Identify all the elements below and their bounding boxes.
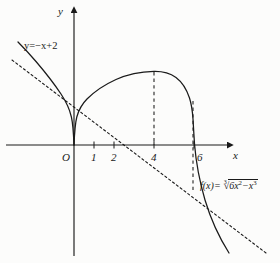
y-axis-label: y (58, 6, 63, 17)
function-curve-left-branch (18, 42, 74, 145)
x-axis-label: x (233, 150, 238, 161)
x-tick-label-2: 2 (111, 152, 117, 163)
x-tick-label-1: 1 (91, 152, 97, 163)
radicand-minus-term: −x (242, 180, 253, 191)
x-tick-label-6: 6 (197, 152, 203, 163)
origin-label: O (62, 152, 70, 163)
x-tick-label-4: 4 (151, 152, 157, 163)
asymptote-line (12, 60, 266, 253)
radicand-exponent-2: 3 (253, 179, 256, 186)
radical-index: 3 (224, 179, 227, 185)
function-prefix: f(x)= (200, 180, 221, 191)
asymptote-equation-label: y=−x+2 (24, 41, 58, 52)
radicand: 6x2−x3 (228, 179, 257, 191)
radicand-lead: 6x (229, 180, 238, 191)
function-equation-label: f(x)=3√6x2−x3 (200, 181, 258, 191)
math-figure: y x O 1 2 4 6 y=−x+2 f(x)=3√6x2−x3 (0, 0, 280, 263)
